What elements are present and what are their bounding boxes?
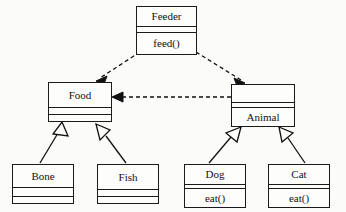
class-name-food: Food <box>49 83 111 107</box>
dependency-feeder-to-food <box>96 52 140 84</box>
class-attributes-food <box>49 107 111 114</box>
class-box-food[interactable]: Food <box>48 82 112 122</box>
generalization-fish-to-food <box>96 124 126 163</box>
class-operations-cat: eat() <box>269 188 329 207</box>
class-attributes-fish <box>98 189 158 196</box>
generalization-bone-to-food <box>40 122 68 163</box>
class-attributes-animal <box>232 85 294 102</box>
uml-class-diagram-canvas: Feeder feed() Food Animal Bone Fish Dog … <box>0 0 346 212</box>
class-operations-feeder: feed() <box>137 32 196 54</box>
class-box-dog[interactable]: Dog eat() <box>184 164 246 208</box>
generalization-cat-to-animal <box>279 127 305 163</box>
class-operations-fish <box>98 196 158 203</box>
class-operations-food <box>49 114 111 121</box>
class-box-animal[interactable]: Animal <box>231 84 295 127</box>
dependency-animal-to-food <box>112 92 231 102</box>
class-name-fish: Fish <box>98 165 158 189</box>
class-box-cat[interactable]: Cat eat() <box>268 164 330 208</box>
dependency-feeder-to-animal <box>196 52 245 86</box>
class-box-feeder[interactable]: Feeder feed() <box>136 6 197 55</box>
class-attributes-bone <box>13 187 73 196</box>
class-box-bone[interactable]: Bone <box>12 164 74 204</box>
class-operations-dog: eat() <box>185 188 245 207</box>
generalization-dog-to-animal <box>209 127 241 163</box>
class-operations-bone <box>13 196 73 203</box>
class-name-feeder: Feeder <box>137 7 196 26</box>
class-name-cat: Cat <box>269 165 329 184</box>
class-name-dog: Dog <box>185 165 245 184</box>
class-box-fish[interactable]: Fish <box>97 164 159 204</box>
class-name-bone: Bone <box>13 165 73 187</box>
class-name-animal: Animal <box>232 107 294 126</box>
